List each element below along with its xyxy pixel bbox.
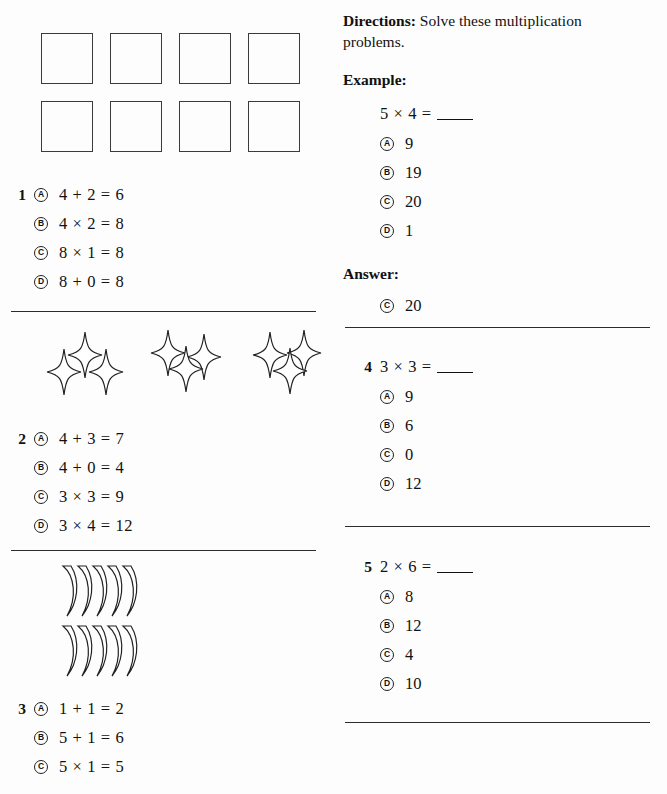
option-text: 12 (405, 474, 422, 494)
question-2-option-c[interactable]: C 3 × 3 = 9 (0, 482, 330, 511)
divider-right-2 (345, 526, 650, 527)
question-2-option-b[interactable]: B 4 + 0 = 4 (0, 453, 330, 482)
option-bullet-a[interactable]: A (380, 590, 394, 604)
answer-blank[interactable] (437, 109, 473, 120)
stars-illustration (40, 328, 334, 396)
option-text: 1 + 1 = 2 (59, 699, 124, 719)
question-4-option-a[interactable]: A 9 (330, 382, 667, 411)
star-group (244, 328, 334, 396)
option-text: 4 + 2 = 6 (59, 185, 124, 205)
question-4-number: 4 (330, 358, 380, 376)
question-3-option-a[interactable]: 3 A 1 + 1 = 2 (0, 694, 330, 723)
question-4-option-b[interactable]: B 6 (330, 411, 667, 440)
option-text: 4 + 3 = 7 (59, 429, 124, 449)
option-bullet-d[interactable]: D (380, 477, 394, 491)
option-text: 8 × 1 = 8 (59, 243, 124, 263)
question-5-option-a[interactable]: A 8 (330, 582, 667, 611)
question-4: 4 3 × 3 = A 9 B 6 C 0 D 12 (330, 352, 667, 498)
option-bullet-a[interactable]: A (380, 390, 394, 404)
squares-row (41, 33, 300, 84)
option-text: 8 + 0 = 8 (59, 272, 124, 292)
question-1-option-a[interactable]: 1 A 4 + 2 = 6 (0, 180, 330, 209)
answer-blank[interactable] (437, 362, 473, 373)
option-text: 19 (405, 163, 422, 183)
option-bullet-b[interactable]: B (34, 461, 48, 475)
example-option-a[interactable]: A 9 (330, 129, 667, 158)
question-2-option-d[interactable]: D 3 × 4 = 12 (0, 511, 330, 540)
question-2-number: 2 (0, 430, 34, 448)
option-bullet-b[interactable]: B (34, 217, 48, 231)
example-option-d[interactable]: D 1 (330, 216, 667, 245)
worksheet-page: 1 A 4 + 2 = 6 B 4 × 2 = 8 C 8 × 1 = 8 D … (0, 0, 667, 794)
option-text: 8 (405, 587, 413, 607)
option-text: 10 (405, 674, 422, 694)
option-bullet-c[interactable]: C (34, 490, 48, 504)
option-text: 9 (405, 387, 413, 407)
square-shape (110, 33, 162, 84)
option-text: 6 (405, 416, 413, 436)
example-option-b[interactable]: B 19 (330, 158, 667, 187)
question-5-option-c[interactable]: C 4 (330, 640, 667, 669)
example-block: 5 × 4 = A 9 B 19 C 20 D 1 (330, 99, 667, 245)
divider-left-2 (11, 550, 316, 551)
option-bullet-b[interactable]: B (380, 419, 394, 433)
option-text: 3 × 3 = 9 (59, 487, 124, 507)
option-bullet-c[interactable]: C (380, 648, 394, 662)
example-option-c[interactable]: C 20 (330, 187, 667, 216)
question-3-number: 3 (0, 700, 34, 718)
question-1-option-c[interactable]: C 8 × 1 = 8 (0, 238, 330, 267)
directions: Directions: Solve these multiplication p… (343, 10, 643, 52)
option-bullet-c: C (380, 299, 394, 313)
option-bullet-b[interactable]: B (380, 166, 394, 180)
example-expression: 5 × 4 = (380, 104, 432, 124)
option-bullet-a[interactable]: A (34, 188, 48, 202)
question-3-option-c[interactable]: C 5 × 1 = 5 (0, 752, 330, 781)
option-bullet-d[interactable]: D (380, 224, 394, 238)
question-4-option-c[interactable]: C 0 (330, 440, 667, 469)
option-bullet-a[interactable]: A (34, 702, 48, 716)
option-text: 3 × 4 = 12 (59, 516, 133, 536)
divider-right-3 (345, 722, 650, 723)
option-bullet-d[interactable]: D (380, 677, 394, 691)
option-bullet-c[interactable]: C (34, 246, 48, 260)
square-shape (179, 101, 231, 152)
option-bullet-d[interactable]: D (34, 275, 48, 289)
option-bullet-a[interactable]: A (380, 137, 394, 151)
question-4-option-d[interactable]: D 12 (330, 469, 667, 498)
option-text: 5 × 1 = 5 (59, 757, 124, 777)
answer-value: 20 (405, 296, 422, 316)
question-5-expression: 2 × 6 = (380, 557, 432, 577)
option-bullet-a[interactable]: A (34, 432, 48, 446)
question-5-number: 5 (330, 558, 380, 576)
square-shape (110, 101, 162, 152)
option-bullet-c[interactable]: C (34, 760, 48, 774)
option-text: 4 + 0 = 4 (59, 458, 124, 478)
question-2-option-a[interactable]: 2 A 4 + 3 = 7 (0, 424, 330, 453)
divider-left-1 (11, 311, 316, 312)
option-text: 1 (405, 221, 413, 241)
option-bullet-c[interactable]: C (380, 195, 394, 209)
example-answer-row: C 20 (330, 291, 667, 320)
question-1-option-b[interactable]: B 4 × 2 = 8 (0, 209, 330, 238)
question-1-option-d[interactable]: D 8 + 0 = 8 (0, 267, 330, 296)
option-bullet-b[interactable]: B (34, 731, 48, 745)
question-2: 2 A 4 + 3 = 7 B 4 + 0 = 4 C 3 × 3 = 9 D … (0, 424, 330, 540)
question-4-stem: 4 3 × 3 = (330, 352, 667, 382)
option-bullet-b[interactable]: B (380, 619, 394, 633)
question-5-option-d[interactable]: D 10 (330, 669, 667, 698)
bananas-svg (55, 562, 175, 682)
answer-blank[interactable] (437, 562, 473, 573)
question-5-option-b[interactable]: B 12 (330, 611, 667, 640)
left-column: 1 A 4 + 2 = 6 B 4 × 2 = 8 C 8 × 1 = 8 D … (0, 0, 330, 794)
option-text: 0 (405, 445, 413, 465)
option-bullet-d[interactable]: D (34, 519, 48, 533)
example-answer: C 20 (330, 291, 667, 320)
square-shape (179, 33, 231, 84)
option-bullet-c[interactable]: C (380, 448, 394, 462)
square-shape (248, 33, 300, 84)
question-3-option-b[interactable]: B 5 + 1 = 6 (0, 723, 330, 752)
option-text: 20 (405, 192, 422, 212)
question-1: 1 A 4 + 2 = 6 B 4 × 2 = 8 C 8 × 1 = 8 D … (0, 180, 330, 296)
question-3: 3 A 1 + 1 = 2 B 5 + 1 = 6 C 5 × 1 = 5 (0, 694, 330, 781)
option-text: 4 (405, 645, 413, 665)
